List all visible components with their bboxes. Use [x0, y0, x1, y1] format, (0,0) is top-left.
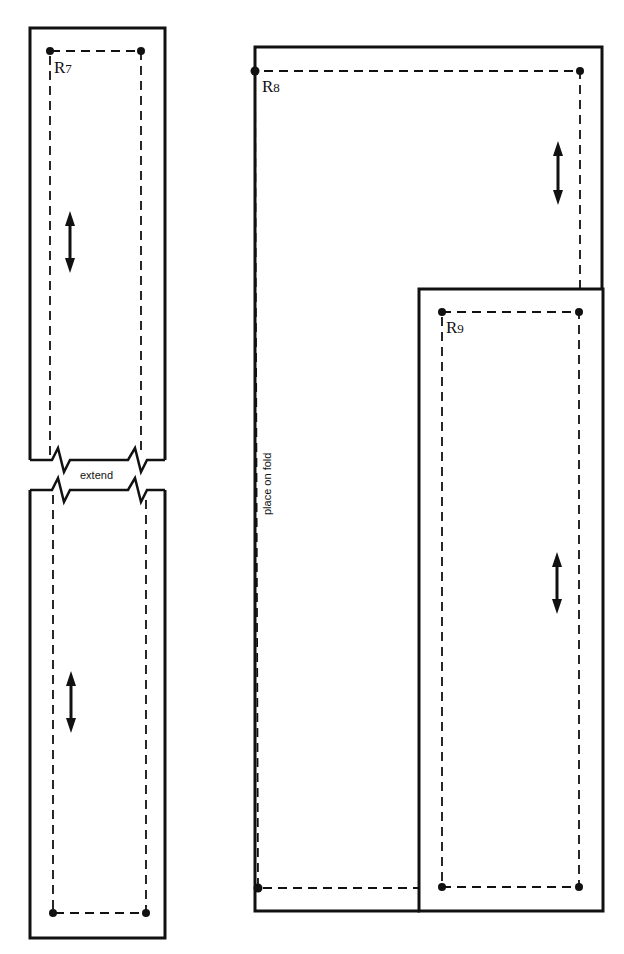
r8-match-dot [254, 884, 263, 893]
r7-stitching-line-top [50, 51, 141, 455]
r7-label: R7 [54, 58, 72, 77]
r7-stitching-line-bottom [53, 495, 146, 913]
grainline-arrow-icon [65, 211, 75, 273]
grainline-arrow-icon [66, 671, 76, 733]
r9-match-dot [575, 883, 583, 891]
grainline-arrow-icon [552, 552, 562, 614]
pattern-diagram: R7 extend R8 place on fold [0, 0, 624, 954]
r8-match-dot [576, 67, 584, 75]
r7-match-dot [142, 909, 150, 917]
r7-extend-note: extend [80, 469, 113, 481]
r7-match-dot [49, 909, 57, 917]
grainline-arrow-icon [553, 141, 563, 205]
pattern-piece-r9: R9 [419, 289, 603, 911]
r7-match-dot [137, 47, 145, 55]
r9-cutting-line [419, 289, 603, 911]
pattern-piece-r8: R8 place on fold [251, 47, 603, 911]
r8-match-dot [251, 67, 260, 76]
r9-label: R9 [446, 318, 464, 337]
r8-label: R8 [262, 77, 280, 96]
r9-match-dot [438, 883, 446, 891]
r7-cutting-line-bottom [30, 490, 165, 938]
r9-match-dot [438, 308, 446, 316]
r8-cutting-line [255, 47, 602, 911]
r8-fold-note: place on fold [261, 453, 273, 515]
pattern-piece-r7: R7 extend [30, 28, 165, 938]
r7-break-line-bottom [30, 478, 165, 502]
r9-match-dot [575, 308, 583, 316]
r7-match-dot [46, 47, 54, 55]
